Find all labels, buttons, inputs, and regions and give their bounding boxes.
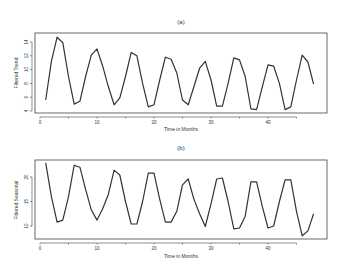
x-axis-label: Time in Months: [164, 126, 198, 132]
panel-title: (b): [177, 145, 184, 151]
data-line: [46, 163, 314, 236]
x-tick-label: 30: [208, 120, 214, 125]
y-tick-label: 14: [24, 39, 29, 45]
y-tick-label: 20: [24, 174, 29, 180]
plot-frame: [35, 160, 327, 239]
data-line: [46, 37, 314, 109]
figure: (a) 468101214 010203040 Time in Months F…: [0, 0, 344, 273]
x-tick-label: 40: [265, 120, 271, 125]
x-axis: 010203040: [39, 243, 297, 251]
x-tick-label: 10: [94, 246, 100, 251]
x-axis: 010203040: [39, 117, 297, 125]
x-tick-label: 30: [208, 246, 214, 251]
y-tick-label: 4: [24, 109, 29, 112]
x-axis-label: Time in Months: [164, 253, 198, 259]
x-tick-label: 10: [94, 120, 100, 125]
x-tick-label: 0: [39, 120, 42, 125]
panel-b: (b) 101520 010203040 Time in Months Filt…: [13, 145, 327, 259]
x-tick-label: 20: [151, 120, 157, 125]
y-axis: 468101214: [24, 39, 32, 112]
y-axis-label: Filtered Trend: [13, 57, 19, 88]
y-tick-label: 6: [24, 95, 29, 98]
x-tick-label: 0: [39, 246, 42, 251]
x-tick-label: 40: [265, 246, 271, 251]
y-tick-label: 15: [24, 199, 29, 205]
y-tick-label: 8: [24, 82, 29, 85]
y-axis: 101520: [24, 174, 32, 229]
panel-a: (a) 468101214 010203040 Time in Months F…: [13, 19, 327, 132]
x-tick-label: 20: [151, 246, 157, 251]
y-tick-label: 12: [24, 53, 29, 59]
y-tick-label: 10: [24, 223, 29, 229]
y-tick-label: 10: [24, 67, 29, 73]
panel-title: (a): [177, 19, 184, 25]
y-axis-label: Filtered Seasonal: [13, 181, 19, 220]
